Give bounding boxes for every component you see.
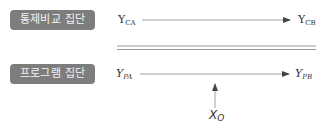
control-posttest: YCB [298, 14, 316, 29]
program-group-label: 프로그램 집단 [10, 64, 95, 84]
control-group-label: 통제비교 집단 [10, 10, 95, 30]
program-pretest: YPA [116, 68, 132, 83]
treatment-label: XO [209, 109, 224, 124]
control-pretest: YCA [118, 14, 136, 29]
program-posttest: YPB [295, 68, 312, 83]
